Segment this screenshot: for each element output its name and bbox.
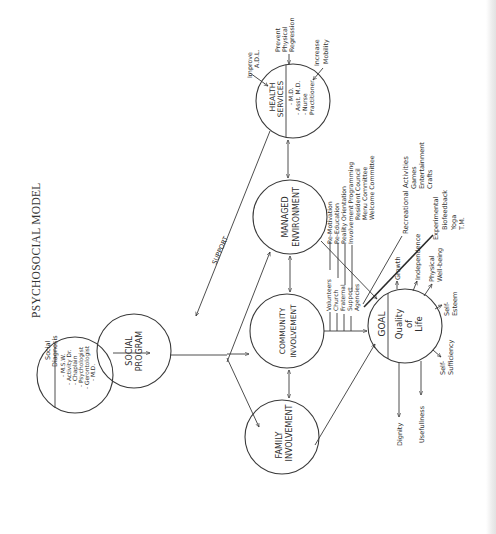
svg-text:Well-being: Well-being: [436, 248, 444, 282]
svg-text:Re-Motivation: Re-Motivation: [326, 201, 333, 244]
svg-text:Increase: Increase: [313, 39, 320, 66]
svg-text:Games: Games: [410, 166, 418, 189]
node-social-diagnosis: Social Diagnosis - M.S.W. - Activity Dr.…: [37, 335, 113, 413]
support-label: SUPPORT: [211, 235, 230, 266]
node-goal: GOAL Quality of Life: [368, 289, 442, 363]
svg-text:Practitioner: Practitioner: [308, 80, 315, 115]
svg-text:Recreational Activities: Recreational Activities: [402, 156, 410, 234]
svg-text:Physical: Physical: [428, 255, 436, 282]
svg-text:Experimental: Experimental: [432, 196, 440, 240]
node-social-program: SOCIAL PROGRAM: [97, 314, 171, 388]
managed-environment-items: Re-Motivation Re-Education Reality Orien…: [326, 155, 375, 244]
svg-text:Agencies: Agencies: [353, 284, 361, 311]
svg-text:Growth: Growth: [394, 256, 402, 280]
svg-text:Mobility: Mobility: [322, 39, 330, 64]
node-health-services: HEALTH SERVICES - M.D. - Asst. M.D. - Nu…: [256, 64, 330, 138]
svg-text:GOAL: GOAL: [377, 311, 387, 336]
svg-text:Yoga: Yoga: [450, 215, 458, 231]
health-outcomes: Improve A.D.L. Prevent Physical Regressi…: [246, 18, 330, 78]
svg-text:Entertainment: Entertainment: [418, 142, 426, 189]
svg-text:Crafts: Crafts: [426, 169, 434, 189]
recreational-activities: Recreational Activities Games Entertainm…: [402, 142, 434, 234]
svg-text:COMMUNITY: COMMUNITY: [278, 307, 287, 354]
svg-text:Resident Council: Resident Council: [354, 168, 361, 220]
svg-text:INVOLVEMENT: INVOLVEMENT: [285, 404, 294, 461]
svg-text:Volunteers: Volunteers: [325, 279, 332, 311]
svg-text:Usefullness: Usefullness: [418, 405, 426, 443]
svg-text:T.M.: T.M.: [458, 217, 466, 231]
scan-edge-shadow: [486, 0, 496, 534]
svg-text:- Asst. M.D.: - Asst. M.D.: [294, 81, 301, 115]
svg-text:Prevent: Prevent: [274, 27, 281, 52]
svg-text:Sufficiency: Sufficiency: [447, 339, 455, 375]
svg-text:SOCIAL: SOCIAL: [125, 336, 134, 366]
svg-text:Quality: Quality: [394, 309, 404, 339]
svg-text:INVOLVEMENT: INVOLVEMENT: [289, 304, 298, 358]
svg-text:FAMILY: FAMILY: [275, 431, 284, 458]
svg-text:- Nurse: - Nurse: [301, 93, 308, 115]
svg-text:Diagnosis: Diagnosis: [51, 335, 59, 367]
node-community-involvement: COMMUNITY INVOLVEMENT: [250, 294, 324, 368]
node-family-involvement: FAMILY INVOLVEMENT: [245, 400, 319, 474]
psychosocial-model-diagram: PSYCHOSOCIAL MODEL Social Diagnosis - M.…: [0, 0, 496, 534]
page-title: PSYCHOSOCIAL MODEL: [30, 182, 42, 318]
community-involvement-items: Volunteers Church Fraternal Support Agen…: [325, 279, 361, 311]
svg-text:Dignity: Dignity: [396, 423, 404, 446]
svg-text:Regression: Regression: [288, 18, 296, 52]
svg-text:PROGRAM: PROGRAM: [135, 331, 144, 372]
svg-text:Biofeedback: Biofeedback: [441, 190, 449, 230]
svg-text:Esteem: Esteem: [451, 292, 459, 316]
experimental-therapies: Experimental Biofeedback Yoga T.M.: [432, 190, 466, 240]
svg-text:ENVIRONMENT: ENVIRONMENT: [292, 187, 301, 247]
svg-text:Re-Education: Re-Education: [333, 203, 340, 244]
svg-text:- M.D.: - M.D.: [287, 87, 294, 105]
svg-text:Menu Committee: Menu Committee: [361, 167, 368, 220]
svg-text:Fraternal: Fraternal: [339, 284, 346, 311]
node-managed-environment: MANAGED ENVIRONMENT: [253, 180, 327, 254]
svg-text:- M.D.: - M.D.: [90, 364, 96, 381]
svg-text:Church: Church: [332, 290, 339, 311]
svg-text:Independence: Independence: [414, 234, 422, 280]
svg-text:Self-: Self-: [439, 360, 447, 375]
svg-text:of: of: [404, 319, 414, 328]
svg-text:SERVICES: SERVICES: [276, 81, 285, 118]
svg-text:MANAGED: MANAGED: [281, 196, 290, 237]
svg-text:Self-: Self-: [443, 301, 451, 316]
svg-text:Life: Life: [414, 316, 424, 331]
svg-text:Welcome Committee: Welcome Committee: [368, 155, 375, 220]
svg-text:A.D.L.: A.D.L.: [253, 49, 260, 68]
